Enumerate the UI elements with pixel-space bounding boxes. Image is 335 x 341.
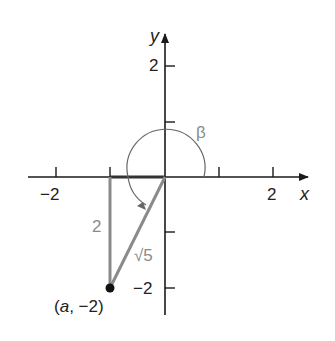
point-a-neg2: [106, 284, 115, 293]
y-axis-label: y: [150, 27, 159, 45]
x-tick-label-neg2: −2: [40, 186, 59, 203]
diagram-canvas: [0, 0, 335, 341]
angle-label-beta: β: [196, 124, 206, 141]
point-label: (a, −2): [54, 298, 104, 315]
x-tick-label-2: 2: [267, 186, 276, 203]
arc-arrowhead-icon: [137, 202, 146, 210]
angle-arc-beta: [127, 129, 205, 205]
vertical-side-label: 2: [92, 218, 101, 235]
triangle-hypotenuse: [110, 177, 165, 288]
point-label-a: a: [60, 297, 69, 316]
y-tick-label-2: 2: [149, 57, 158, 74]
y-tick-label-neg2: −2: [133, 280, 152, 297]
point-label-rest: , −2): [69, 297, 104, 316]
hypotenuse-label: √5: [134, 247, 153, 264]
diagram: y x 2 −2 −2 2 β 2 √5 (a, −2): [0, 0, 335, 341]
x-axis-label: x: [300, 185, 309, 203]
